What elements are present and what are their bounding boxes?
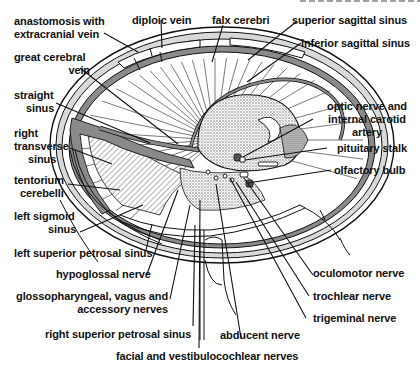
label-olfactory-bulb: olfactory bulb	[334, 164, 405, 177]
label-hypoglossal-nerve: hypoglossal nerve	[56, 268, 151, 281]
label-great-cerebral-vein: great cerebral vein	[14, 51, 90, 77]
label-line: great cerebral	[14, 51, 90, 64]
label-line: sinus	[14, 153, 69, 166]
label-diploic-vein: diploic vein	[132, 14, 191, 27]
label-line: sinus	[14, 223, 76, 236]
label-line: sinus	[14, 102, 54, 115]
label-line: straight	[14, 89, 54, 102]
label-line: glossopharyngeal, vagus and	[14, 290, 168, 303]
label-anastomosis-extracranial-vein: anastomosis with extracranial vein	[14, 15, 105, 41]
label-glossopharyngeal-vagus-accessory-nerves: glossopharyngeal, vagus and accessory ne…	[14, 290, 168, 316]
label-falx-cerebri: falx cerebri	[212, 14, 270, 27]
label-trigeminal-nerve: trigeminal nerve	[313, 312, 396, 325]
label-right-transverse-sinus: right transverse sinus	[14, 127, 69, 166]
label-line: anastomosis with	[14, 15, 105, 28]
label-inferior-sagittal-sinus: inferior sagittal sinus	[301, 37, 410, 50]
label-line: tentorium	[14, 174, 64, 187]
anatomy-figure: anastomosis with extracranial vein diplo…	[0, 0, 420, 367]
label-pituitary-stalk: pituitary stalk	[337, 142, 407, 155]
label-optic-nerve-internal-carotid-artery: optic nerve and internal carotid artery	[314, 100, 420, 139]
label-right-superior-petrosal-sinus: right superior petrosal sinus	[45, 328, 191, 341]
label-oculomotor-nerve: oculomotor nerve	[313, 267, 404, 280]
label-line: left sigmoid	[14, 210, 76, 223]
label-trochlear-nerve: trochlear nerve	[313, 290, 391, 303]
label-left-superior-petrosal-sinus: left superior petrosal sinus	[14, 247, 152, 260]
label-line: artery	[314, 126, 420, 139]
label-line: accessory nerves	[14, 303, 168, 316]
label-abducent-nerve: abducent nerve	[220, 329, 300, 342]
label-straight-sinus: straight sinus	[14, 89, 54, 115]
label-line: cerebelli	[14, 187, 64, 200]
label-line: internal carotid	[314, 113, 420, 126]
label-facial-vestibulocochlear-nerves: facial and vestibulocochlear nerves	[116, 350, 298, 363]
label-line: right	[14, 127, 69, 140]
label-superior-sagittal-sinus: superior sagittal sinus	[292, 14, 407, 27]
label-tentorium-cerebelli: tentorium cerebelli	[14, 174, 64, 200]
label-line: extracranial vein	[14, 28, 105, 41]
label-line: transverse	[14, 140, 69, 153]
label-left-sigmoid-sinus: left sigmoid sinus	[14, 210, 76, 236]
label-line: optic nerve and	[314, 100, 420, 113]
label-line: vein	[14, 64, 90, 77]
